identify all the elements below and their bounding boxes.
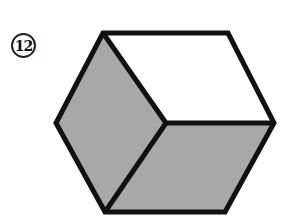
cube-figure [0,0,297,218]
